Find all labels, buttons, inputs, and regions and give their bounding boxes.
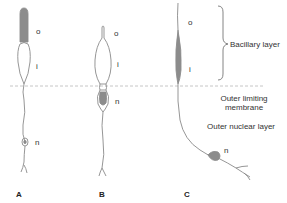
cell-b-label-n: n (115, 97, 119, 106)
cell-a-label-n: n (35, 138, 39, 147)
bacillary-layer-label: Bacillary layer (230, 40, 280, 49)
cell-a-fiber (23, 84, 25, 142)
outer-nuclear-layer-label: Outer nuclear layer (201, 122, 281, 131)
olm-label-line1: Outer limiting (213, 94, 275, 103)
cell-c-fiber (178, 84, 212, 157)
panel-label-a: A (16, 190, 22, 199)
panel-label-b: B (99, 190, 105, 199)
cell-b-nucleus (100, 92, 107, 105)
cell-a (18, 8, 31, 173)
cell-c-label-i: i (189, 65, 191, 74)
cell-b-label-i: i (117, 60, 119, 69)
cell-b (95, 26, 111, 176)
olm-label-line2: membrane (213, 103, 275, 112)
cell-a-inner-segment (18, 43, 31, 85)
cell-c (176, 3, 250, 180)
panel-label-c: C (184, 190, 190, 199)
cell-c-top-fiber (178, 3, 179, 30)
cell-c-label-n: n (224, 146, 228, 155)
bacillary-layer-brace (218, 6, 228, 80)
cell-b-fiber (99, 112, 106, 176)
cell-a-label-i: i (36, 62, 38, 71)
cell-b-label-o: o (114, 29, 118, 38)
cell-c-label-o: o (188, 18, 192, 27)
cell-a-label-o: o (36, 27, 40, 36)
cell-b-outer-segment (95, 26, 111, 84)
cell-c-nucleus (208, 151, 220, 160)
cell-c-segment (176, 30, 181, 84)
cell-a-outer-segment (20, 8, 28, 42)
